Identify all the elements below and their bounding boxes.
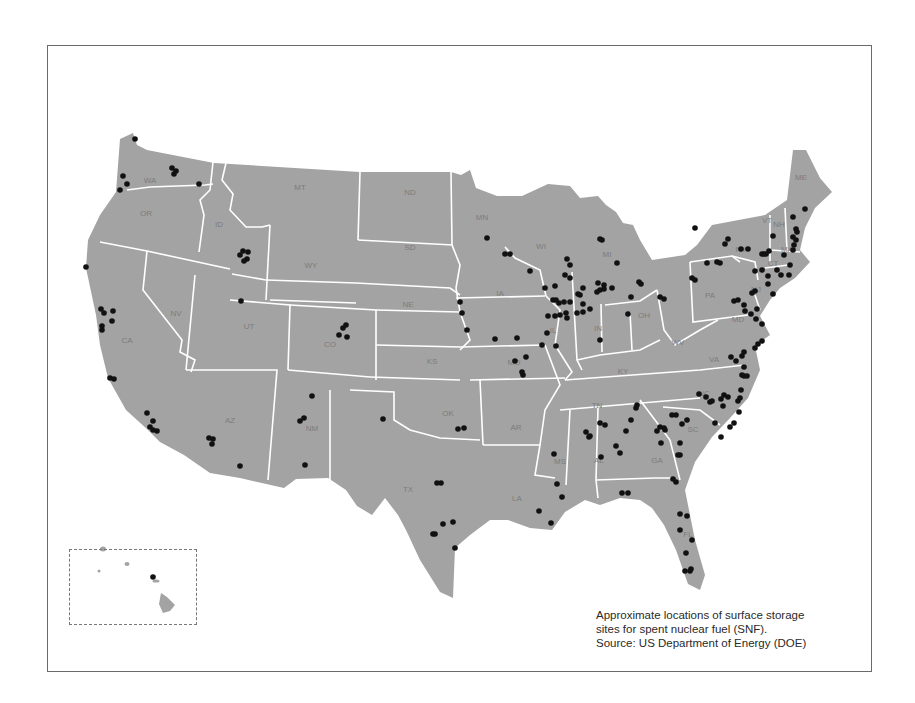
state-label-co: CO [324,340,336,349]
storage-site-marker [502,251,508,257]
storage-site-marker [741,302,747,308]
storage-site-marker [99,327,105,333]
caption-line-2: sites for spent nuclear fuel (SNF). [596,622,806,636]
storage-site-marker [514,335,520,341]
storage-site-marker [336,332,342,338]
storage-site-marker [733,358,739,364]
state-label-tn: TN [592,401,603,410]
storage-site-marker [519,369,525,375]
storage-site-marker [677,511,683,517]
state-label-wv: WV [672,338,686,347]
storage-site-marker [564,256,570,262]
storage-site-marker [742,308,748,314]
storage-site-marker [117,187,123,193]
storage-site-marker [567,299,573,305]
storage-site-marker [619,490,625,496]
storage-site-marker [580,301,586,307]
storage-site-marker [597,337,603,343]
storage-site-marker [83,264,89,270]
storage-site-marker [684,513,690,519]
storage-site-marker [661,296,667,302]
state-label-sd: SD [404,243,415,252]
storage-site-marker [512,358,518,364]
state-label-mi: MI [603,250,612,259]
storage-site-marker [654,428,660,434]
storage-site-marker [583,429,589,435]
storage-site-marker [623,428,629,434]
storage-site-marker [150,418,156,424]
map-caption: Approximate locations of surface storage… [596,608,806,650]
storage-site-marker [778,272,784,278]
storage-site-marker [507,251,513,257]
storage-site-marker [450,519,456,525]
storage-site-marker [692,277,698,283]
storage-site-marker [638,281,644,287]
storage-site-marker [786,272,792,278]
storage-site-marker [309,393,315,399]
storage-site-marker [554,481,560,487]
storage-site-marker [380,416,386,422]
hawaii-inset-frame [69,549,197,625]
state-label-wy: WY [305,261,319,270]
storage-site-marker [344,334,350,340]
storage-site-marker [154,428,160,434]
storage-site-marker [564,315,570,321]
storage-site-marker [539,342,545,348]
storage-site-marker [669,412,675,418]
storage-site-marker [736,409,742,415]
storage-site-marker [245,249,251,255]
state-label-ky: KY [618,367,629,376]
storage-site-marker [718,434,724,440]
storage-site-marker [675,452,681,458]
storage-site-marker [717,260,723,266]
storage-site-marker [557,312,563,318]
storage-site-marker [559,494,565,500]
storage-site-marker [144,410,150,416]
storage-site-marker [725,236,731,242]
storage-site-marker [438,480,444,486]
state-label-ut: UT [244,322,255,331]
storage-site-marker [567,275,573,281]
storage-site-marker [457,299,463,305]
storage-site-marker [682,568,688,574]
storage-site-marker [720,403,726,409]
storage-site-marker [597,420,603,426]
state-label-ct: CT [768,259,779,268]
state-label-nd: ND [404,188,416,197]
storage-site-marker [735,297,741,303]
storage-site-marker [196,181,202,187]
storage-site-marker [759,321,765,327]
storage-site-marker [598,454,604,460]
storage-site-marker [689,537,695,543]
storage-site-marker [301,415,307,421]
storage-site-marker [759,267,765,273]
storage-site-marker [562,272,568,278]
state-label-nv: NV [170,309,182,318]
storage-site-marker [634,402,640,408]
storage-site-marker [696,391,702,397]
storage-site-marker [132,136,138,142]
storage-site-marker [552,313,558,319]
storage-site-marker [110,308,116,314]
storage-site-marker [790,214,796,220]
state-label-va: VA [709,355,720,364]
storage-site-marker [662,427,668,433]
state-label-wi: WI [536,242,546,251]
storage-site-marker [793,226,799,232]
state-label-az: AZ [225,416,235,425]
storage-site-marker [677,527,683,533]
storage-site-marker [763,251,769,257]
storage-site-marker [727,424,733,430]
storage-site-marker [109,318,115,324]
state-label-ks: KS [427,357,438,366]
storage-site-marker [237,252,243,258]
storage-site-marker [738,387,744,393]
storage-site-marker [754,306,760,312]
storage-site-marker [432,531,438,537]
storage-site-marker [556,300,562,306]
storage-site-marker [744,373,750,379]
storage-site-marker [625,490,631,496]
storage-site-marker [523,354,529,360]
storage-site-marker [677,440,683,446]
storage-site-marker [492,336,498,342]
